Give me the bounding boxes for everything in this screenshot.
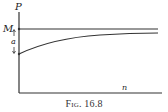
gap-label: a [11,37,16,46]
growth-curve [19,33,158,54]
figure: P M a n Fig. 16.8 [0,0,168,112]
x-axis-label: n [122,83,127,92]
diagram-canvas: P M a n [0,0,168,112]
figure-caption: Fig. 16.8 [0,98,168,109]
y-axis-label: P [14,1,22,12]
asymptote-label: M [2,23,14,34]
